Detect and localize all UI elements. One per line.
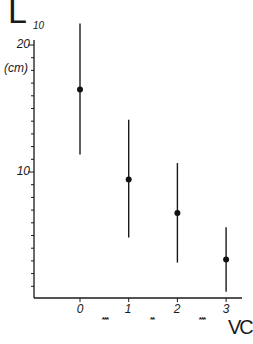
x-axis-title: VC: [228, 316, 252, 339]
significance-1-2: **: [137, 315, 167, 324]
data-point: [223, 257, 229, 263]
data-point: [174, 210, 180, 216]
y-axis-title-subscript: 10: [33, 20, 44, 31]
data-series: [77, 23, 229, 291]
x-tick-label-3: 3: [218, 302, 234, 316]
significance-0-1: ***: [90, 315, 120, 324]
data-point: [77, 86, 83, 92]
chart-plot-area: [0, 0, 253, 344]
x-tick-label-0: 0: [72, 302, 88, 316]
y-tick-label-20: 20: [2, 37, 30, 51]
y-tick-label-10: 10: [2, 164, 30, 178]
significance-2-3: ***: [187, 315, 217, 324]
y-axis-title: L: [8, 0, 27, 28]
y-axis-unit: (cm): [4, 61, 28, 75]
x-tick-label-2: 2: [169, 302, 185, 316]
data-point: [126, 177, 132, 183]
x-tick-label-1: 1: [120, 302, 136, 316]
